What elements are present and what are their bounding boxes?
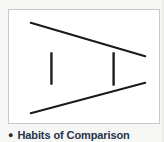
caption-bullet-item: ● Habits of Comparison	[8, 129, 164, 142]
ponzo-illusion-figure	[9, 10, 159, 123]
slide-canvas: ● Habits of Comparison	[0, 0, 164, 142]
lower-converging-line	[31, 83, 145, 113]
caption-label: Habits of Comparison	[17, 129, 129, 141]
bullet-icon: ●	[8, 129, 13, 141]
slide-right-edge	[162, 0, 164, 142]
illustration-panel	[8, 9, 160, 124]
upper-converging-line	[31, 23, 145, 56]
